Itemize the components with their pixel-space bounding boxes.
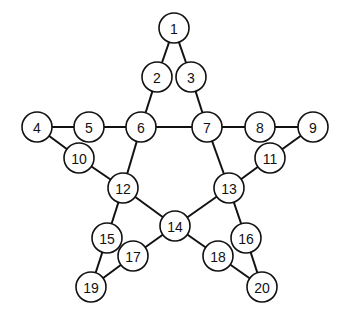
node-label: 5 <box>85 120 93 136</box>
node-label: 11 <box>263 151 278 167</box>
node-label: 4 <box>33 120 41 136</box>
node-label: 3 <box>187 70 195 86</box>
node-label: 15 <box>99 231 115 247</box>
node-10: 10 <box>64 143 94 173</box>
node-15: 15 <box>92 223 122 253</box>
node-5: 5 <box>74 112 104 142</box>
node-18: 18 <box>203 241 233 271</box>
node-label: 16 <box>238 231 254 247</box>
node-4: 4 <box>22 112 52 142</box>
node-17: 17 <box>118 241 148 271</box>
node-9: 9 <box>298 112 328 142</box>
node-label: 6 <box>137 120 145 136</box>
node-1: 1 <box>159 13 189 43</box>
node-7: 7 <box>192 112 222 142</box>
node-label: 2 <box>153 70 161 86</box>
node-16: 16 <box>231 223 261 253</box>
nodes-layer: 1234567891011121314151617181920 <box>22 13 328 302</box>
node-label: 12 <box>115 181 131 197</box>
node-6: 6 <box>126 112 156 142</box>
node-label: 7 <box>203 120 211 136</box>
node-14: 14 <box>160 211 190 241</box>
node-20: 20 <box>247 272 277 302</box>
node-label: 14 <box>167 219 183 235</box>
node-label: 18 <box>210 249 226 265</box>
node-label: 8 <box>256 120 264 136</box>
node-2: 2 <box>142 62 172 92</box>
node-label: 1 <box>170 21 178 37</box>
graph-svg: 1234567891011121314151617181920 <box>0 0 343 313</box>
node-12: 12 <box>108 173 138 203</box>
node-8: 8 <box>245 112 275 142</box>
node-label: 13 <box>221 181 237 197</box>
node-3: 3 <box>176 62 206 92</box>
node-label: 19 <box>83 280 99 296</box>
star-graph-diagram: 1234567891011121314151617181920 <box>0 0 343 313</box>
node-13: 13 <box>214 173 244 203</box>
node-label: 20 <box>254 280 270 296</box>
node-label: 10 <box>71 151 87 167</box>
node-11: 11 <box>255 143 285 173</box>
node-label: 9 <box>309 120 317 136</box>
node-19: 19 <box>76 272 106 302</box>
node-label: 17 <box>125 249 141 265</box>
